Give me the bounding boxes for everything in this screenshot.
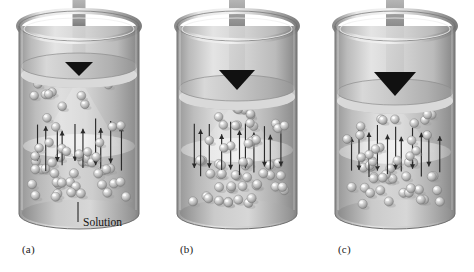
cylinder-base-inner [338, 200, 452, 227]
cylinder-panel-c [326, 0, 474, 272]
cylinder-diagram-a [10, 0, 168, 230]
cylinder-diagram-b [168, 0, 326, 230]
solution-label: Solution [83, 216, 122, 228]
panel-label-b: (b) [180, 243, 193, 255]
panel-label-c: (c) [338, 243, 351, 255]
cylinder-diagram-c [326, 0, 474, 230]
osmotic-pressure-figure: (a)(b)(c)Solution [0, 0, 474, 272]
panel-label-a: (a) [22, 243, 35, 255]
